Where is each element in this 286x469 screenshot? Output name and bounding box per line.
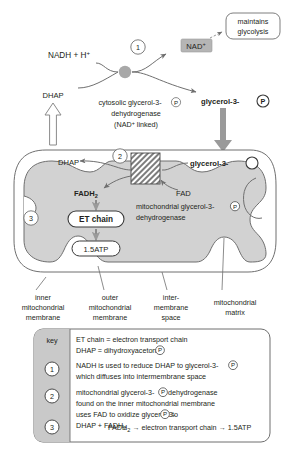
- svg-text:matrix: matrix: [225, 308, 245, 317]
- atp-yield-box: 1.5ATP: [72, 241, 120, 256]
- svg-text:mitochondrial glycerol-3-: mitochondrial glycerol-3-: [76, 388, 155, 397]
- svg-text:2: 2: [118, 152, 122, 161]
- svg-text:P: P: [231, 361, 235, 368]
- key-definition-et-chain: ET chain = electron transport chain: [76, 335, 188, 344]
- svg-text:membrane: membrane: [26, 313, 60, 322]
- svg-text:(NAD+ linked): (NAD+ linked): [114, 120, 158, 129]
- nad-plus-box: NAD+: [181, 39, 212, 52]
- svg-text:to: to: [172, 410, 178, 419]
- svg-text:P: P: [158, 346, 162, 353]
- svg-text:space: space: [161, 313, 180, 322]
- svg-text:cytosolic glycerol-3-: cytosolic glycerol-3-: [98, 98, 162, 107]
- svg-text:P: P: [174, 99, 178, 106]
- cytosolic-glycerol3p-label: glycerol-3- P: [201, 95, 269, 107]
- svg-text:1: 1: [50, 365, 54, 374]
- svg-text:mitochondrial: mitochondrial: [22, 303, 65, 312]
- intermembrane-dhap-label: DHAP: [58, 158, 79, 167]
- fad-label: FAD: [176, 189, 191, 198]
- svg-text:glycolysis: glycolysis: [238, 27, 269, 36]
- key-title: key: [46, 336, 58, 345]
- svg-text:maintains: maintains: [238, 17, 269, 26]
- svg-text:NADH is used to reduce DHAP to: NADH is used to reduce DHAP to glycerol-…: [76, 361, 219, 370]
- nadh-label: NADH + H+: [48, 50, 90, 60]
- svg-text:FADH2: FADH2: [74, 189, 98, 199]
- svg-text:mitochondrial: mitochondrial: [89, 303, 132, 312]
- glycerol-3-phosphate-shuttle-diagram: NADH + H+ 1 NAD+ maintains glycolysis DH…: [0, 0, 286, 469]
- svg-text:dehydrogenase: dehydrogenase: [168, 388, 218, 397]
- svg-text:P: P: [161, 388, 165, 395]
- et-chain-box: ET chain: [68, 211, 124, 227]
- svg-text:NADH + H+: NADH + H+: [48, 50, 90, 60]
- svg-text:mitochondrial glycerol-3-: mitochondrial glycerol-3-: [136, 202, 215, 211]
- svg-text:found on the inner mitochondri: found on the inner mitochondrial membran…: [76, 399, 215, 408]
- step-marker-2: 2: [113, 149, 127, 163]
- svg-text:glycerol-3-: glycerol-3-: [201, 97, 240, 106]
- svg-text:3: 3: [29, 214, 33, 223]
- svg-text:dehydrogenase: dehydrogenase: [111, 109, 161, 118]
- svg-text:ET chain: ET chain: [79, 215, 113, 224]
- key-definition-dhap: DHAP = dihydroxyacetone- P: [76, 346, 164, 355]
- svg-text:DHAP = dihydroxyacetone-: DHAP = dihydroxyacetone-: [76, 346, 163, 355]
- svg-text:outer: outer: [102, 293, 119, 302]
- mitochondrial-dehydrogenase-enzyme: [131, 153, 160, 184]
- svg-text:membrane: membrane: [93, 313, 127, 322]
- svg-text:P: P: [233, 203, 237, 210]
- svg-text:3: 3: [50, 423, 54, 432]
- svg-text:inner: inner: [35, 293, 52, 302]
- svg-text:membrane: membrane: [154, 303, 188, 312]
- svg-text:1.5ATP: 1.5ATP: [84, 245, 109, 254]
- cytosolic-dhap-label: DHAP: [42, 91, 63, 100]
- svg-text:2: 2: [50, 392, 54, 401]
- svg-text:dehydrogenase: dehydrogenase: [136, 213, 186, 222]
- svg-text:P: P: [261, 97, 266, 106]
- intermembrane-glycerol3p-label: glycerol-3-: [190, 157, 258, 169]
- svg-text:1: 1: [136, 43, 140, 52]
- fadh2-label: FADH2: [74, 189, 98, 199]
- svg-text:inter-: inter-: [163, 293, 180, 302]
- key-entry-3: 3: [45, 420, 59, 434]
- svg-text:which diffuses into intermembr: which diffuses into intermembrane space: [75, 372, 206, 381]
- step-marker-1: 1: [131, 40, 145, 54]
- svg-text:glycerol-3-: glycerol-3-: [190, 159, 229, 168]
- reaction-node: [119, 66, 131, 78]
- step-marker-3: 3: [24, 211, 38, 225]
- svg-text:mitochondrial: mitochondrial: [214, 298, 257, 307]
- key-entry-3-text: FADH2 → electron transport chain → 1.5AT…: [108, 423, 251, 433]
- svg-text:P: P: [163, 410, 167, 417]
- maintains-glycolysis-box: maintains glycolysis: [226, 13, 280, 39]
